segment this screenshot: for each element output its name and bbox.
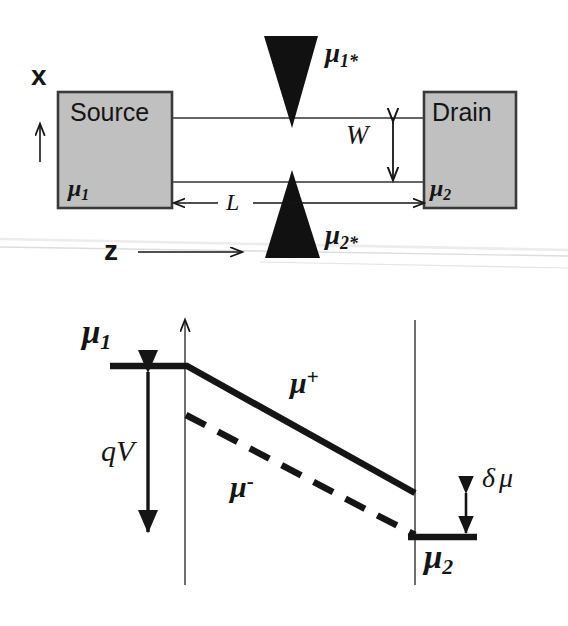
delta-mu-label: δμ xyxy=(482,464,513,492)
delta-glyph: δ xyxy=(482,462,495,493)
plot-mu2-label: μ2 xyxy=(424,541,453,574)
figure-graphics xyxy=(0,0,568,626)
mu-plus-mu: μ xyxy=(290,366,307,399)
mu-minus-label: μ- xyxy=(230,472,254,502)
mu-minus-sup: - xyxy=(247,469,254,493)
mu-plus-sup: + xyxy=(307,365,319,389)
source-potential-sub: 1 xyxy=(81,186,89,203)
source-potential-label: μ1 xyxy=(68,176,89,200)
lower-cone-label: μ2* xyxy=(325,222,358,249)
length-dimension-label: L xyxy=(226,190,239,214)
mu-minus-mu: μ xyxy=(230,470,247,503)
source-contact-label: Source xyxy=(70,100,149,125)
source-potential-mu: μ xyxy=(68,175,81,201)
plot-mu1-sub: 1 xyxy=(100,330,111,354)
upper-cone-label: μ1* xyxy=(325,40,358,67)
drain-potential-label: μ2 xyxy=(430,176,451,200)
lower-cone-mu: μ xyxy=(325,220,340,250)
plot-mu2-sub: 2 xyxy=(442,555,453,579)
lower-cone-sub: 2* xyxy=(340,233,358,253)
upper-cone-shape xyxy=(264,36,318,128)
delta-mu-glyph: μ xyxy=(499,462,513,493)
plot-mu1-mu: μ xyxy=(82,314,100,350)
plot-mu1-label: μ1 xyxy=(82,316,111,349)
z-axis-label: z xyxy=(104,237,118,265)
lower-cone-shape xyxy=(265,170,320,258)
mu-plus-series xyxy=(110,366,415,493)
drain-potential-sub: 2 xyxy=(443,186,451,203)
drain-contact-label: Drain xyxy=(432,100,492,125)
x-axis-label: x xyxy=(31,62,47,90)
upper-cone-mu: μ xyxy=(325,38,340,68)
mu-plus-label: μ+ xyxy=(290,368,319,398)
plot-mu2-mu: μ xyxy=(424,539,442,575)
width-dimension-label: W xyxy=(346,122,369,149)
drain-potential-mu: μ xyxy=(430,175,443,201)
upper-cone-sub: 1* xyxy=(340,51,358,71)
figure-root: Source μ1 Drain μ2 μ1* μ2* W L x z μ1 μ2… xyxy=(0,0,568,626)
qv-label: qV xyxy=(101,436,134,466)
